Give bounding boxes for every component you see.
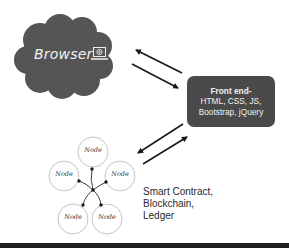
frontend-line-1: HTML, CSS, JS, [201,96,262,107]
backend-text: Smart Contract, Blockchain, Ledger [143,186,213,222]
node-label-right: Node [105,170,135,178]
frontend-box: Front end- HTML, CSS, JS, Bootstrap, jQu… [187,76,275,127]
node-label-bottom-left: Node [58,213,88,221]
backend-line-1: Smart Contract, [143,186,213,198]
backend-line-2: Blockchain, [143,198,213,210]
hub-connectors [79,169,106,205]
browser-label: Browser [34,46,92,62]
arrow-frontend-to-network [138,124,183,153]
node-label-left: Node [49,170,79,178]
arrow-network-to-frontend [143,137,187,164]
bottom-divider [0,243,289,248]
node-label-bottom-right: Node [92,213,122,221]
frontend-title: Front end- [210,86,251,97]
frontend-line-2: Bootstrap, jQuery [199,107,264,118]
backend-line-3: Ledger [143,210,213,222]
node-label-top: Node [78,146,108,154]
